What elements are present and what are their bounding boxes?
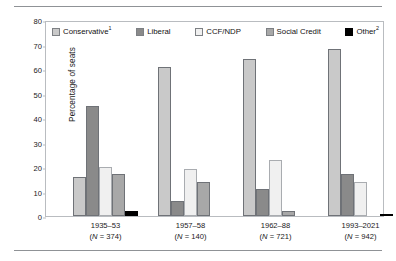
bar (125, 211, 138, 216)
x-axis-group-label: 1993–2021(N = 942) (311, 220, 396, 242)
y-tick-mark (43, 218, 46, 219)
bar (171, 201, 184, 216)
plot-area: Percentage of seats 01020304050607080 Co… (45, 21, 384, 217)
bar (243, 59, 256, 216)
y-tick-label: 80 (34, 18, 42, 26)
bar (282, 211, 295, 216)
bar (380, 214, 393, 216)
bar (269, 160, 282, 216)
bar (328, 49, 341, 216)
y-tick-label: 40 (34, 116, 42, 124)
y-tick-label: 70 (34, 43, 42, 51)
bars-layer (46, 22, 383, 216)
bar (354, 182, 367, 216)
x-axis-period: 1993–2021 (341, 221, 379, 230)
y-tick-label: 30 (34, 141, 42, 149)
bar (73, 177, 86, 216)
x-axis-period: 1957–58 (176, 221, 206, 230)
bar-group (158, 22, 223, 216)
y-tick-label: 50 (34, 92, 42, 100)
bar-group (73, 22, 138, 216)
bar (197, 182, 210, 216)
x-axis-period: 1935–53 (91, 221, 121, 230)
y-tick-label: 60 (34, 67, 42, 75)
bar (158, 67, 171, 216)
y-tick-label: 20 (34, 165, 42, 173)
bar-group (328, 22, 393, 216)
bar (341, 174, 354, 216)
bar (86, 106, 99, 216)
bar (112, 174, 125, 216)
x-axis-period: 1962–88 (261, 221, 291, 230)
x-axis-sample-size: (N = 942) (311, 231, 396, 242)
y-tick-label: 0 (38, 214, 42, 222)
x-axis-labels: 1935–53(N = 374)1957–58(N = 140)1962–88(… (45, 220, 384, 254)
figure-container: Percentage of seats 01020304050607080 Co… (0, 0, 396, 261)
bar (184, 169, 197, 216)
bar-group (243, 22, 308, 216)
bar (99, 167, 112, 216)
top-horizontal-rule (14, 6, 382, 7)
bar (256, 189, 269, 216)
y-tick-label: 10 (34, 190, 42, 198)
